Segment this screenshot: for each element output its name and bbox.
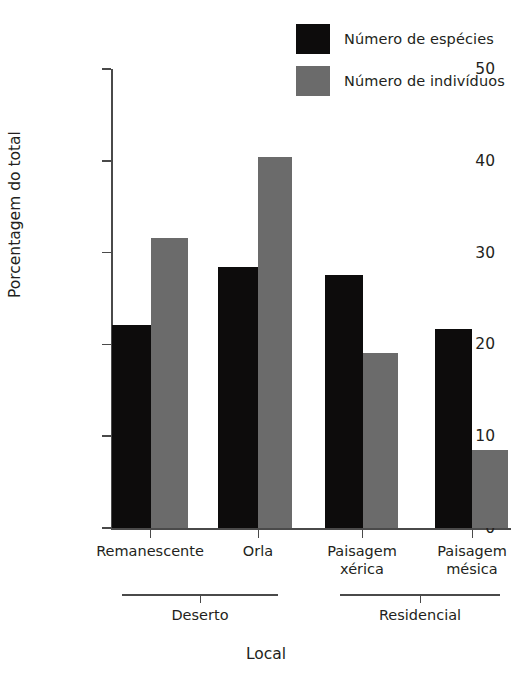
y-tick-30 (102, 252, 111, 254)
x-tick-label-line1: Orla (243, 542, 273, 560)
x-tick-label-line2: xérica (327, 560, 397, 578)
group-label-deserto: Deserto (171, 607, 228, 623)
group-bracket-stem-0 (200, 595, 201, 603)
bar-paisagem-mésica-species (435, 329, 472, 528)
legend-label-species: Número de espécies (344, 31, 494, 47)
x-tick-label-line1: Paisagem (437, 542, 507, 560)
y-tick-50 (102, 68, 111, 70)
x-tick-3 (472, 529, 473, 538)
bar-orla-individuals (258, 157, 292, 528)
black-square-swatch (296, 24, 330, 54)
y-tick-10 (102, 435, 111, 437)
bar-paisagem-mésica-individuals (472, 450, 508, 528)
legend-item-species: Número de espécies (296, 22, 505, 56)
group-bracket-stem-1 (420, 595, 421, 603)
group-label-residencial: Residencial (379, 607, 461, 623)
x-tick-0 (150, 529, 151, 538)
bar-remanescente-species (112, 325, 151, 528)
y-tick-40 (102, 160, 111, 162)
x-tick-label-line1: Remanescente (96, 542, 204, 560)
x-axis-title: Local (0, 645, 532, 663)
bar-remanescente-individuals (151, 238, 188, 528)
x-tick-2 (362, 529, 363, 538)
chart-figure: { "chart_data": { "type": "bar", "title"… (0, 0, 532, 679)
x-tick-1 (258, 529, 259, 538)
x-tick-label-line1: Paisagem (327, 542, 397, 560)
bar-paisagem-xérica-species (325, 275, 363, 528)
y-tick-label-30: 30 (475, 244, 495, 262)
x-axis-line (111, 528, 511, 530)
x-tick-label-1: Orla (243, 542, 273, 560)
y-tick-20 (102, 344, 111, 346)
x-tick-label-0: Remanescente (96, 542, 204, 560)
y-tick-label-20: 20 (475, 335, 495, 353)
x-tick-label-line2: mésica (437, 560, 507, 578)
x-tick-label-3: Paisagemmésica (437, 542, 507, 578)
bar-orla-species (218, 267, 258, 528)
plot-area: 01020304050 (111, 69, 511, 528)
x-tick-label-2: Paisagemxérica (327, 542, 397, 578)
bar-paisagem-xérica-individuals (363, 353, 398, 528)
y-tick-label-10: 10 (475, 427, 495, 445)
y-tick-0 (102, 527, 111, 529)
y-tick-label-40: 40 (475, 152, 495, 170)
y-tick-label-50: 50 (475, 60, 495, 78)
y-axis-title: Porcentagem do total (6, 131, 24, 298)
